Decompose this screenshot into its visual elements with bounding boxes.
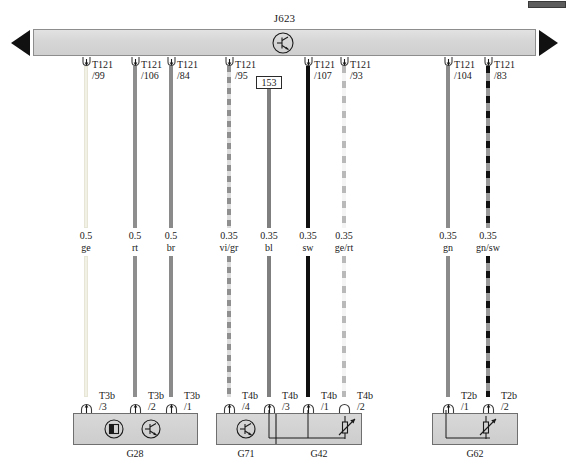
- wire-spec-9: 0.35 gn/sw: [458, 230, 518, 254]
- wire-rt: [133, 66, 137, 228]
- splice-153-box[interactable]: 153: [256, 76, 282, 89]
- top-pin-label-8: T121 /83: [494, 59, 515, 81]
- bottom-pin-label-9: T2b /2: [501, 390, 517, 412]
- wire-ge-rt: [342, 66, 346, 228]
- bottom-pin-label-1: T3b /3: [99, 390, 115, 412]
- wire-rt-lower: [133, 256, 137, 397]
- component-label-g42: G42: [279, 448, 359, 459]
- wire-spec-7: 0.35 ge/rt: [314, 230, 374, 254]
- splice-153-label: 153: [257, 77, 281, 88]
- wire-br-lower: [169, 256, 173, 397]
- wire-br: [169, 66, 173, 228]
- wire-ge: [84, 66, 88, 228]
- bottom-pin-label-3: T3b /1: [184, 390, 200, 412]
- top-pin-label-6: T121 /93: [350, 59, 371, 81]
- component-label-g71: G71: [206, 448, 286, 459]
- top-pin-label-4: T121 /95: [235, 59, 256, 81]
- wire-vi-gr: [227, 66, 231, 228]
- top-pin-label-5: T121 /107: [314, 59, 335, 81]
- bottom-pin-label-2: T3b /2: [148, 390, 164, 412]
- top-pin-label-7: T121 /104: [454, 59, 475, 81]
- bus-continues-right-arrow-icon: [539, 30, 558, 56]
- transistor-circle-icon: [271, 31, 295, 55]
- wire-gn-sw-lower: [486, 256, 490, 397]
- bottom-pin-label-7: T4b /2: [357, 390, 373, 412]
- component-g28[interactable]: [73, 413, 198, 445]
- variable-resistor-icon: [337, 415, 359, 441]
- transistor-circle-icon: [235, 418, 257, 440]
- wire-vi-gr-lower: [227, 256, 231, 397]
- wire-sw-lower: [306, 256, 310, 397]
- wire-gn: [446, 66, 450, 228]
- half-filled-circle-icon: [103, 418, 125, 440]
- wire-ge-lower: [84, 256, 88, 397]
- bottom-pin-label-5: T4b /3: [282, 390, 298, 412]
- module-id-label: J623: [0, 12, 569, 24]
- bottom-pin-label-8: T2b /1: [461, 390, 477, 412]
- wire-bl: [267, 89, 271, 228]
- component-label-g62: G62: [435, 448, 515, 459]
- wire-ge-rt-lower: [342, 256, 346, 397]
- wire-gn-sw: [486, 66, 490, 228]
- wire-bl-lower: [267, 256, 271, 397]
- component-label-g28: G28: [95, 448, 175, 459]
- wire-sw: [306, 66, 310, 228]
- wiring-diagram-canvas: J623 153 T121 /99 0.5 ge T3b /3: [0, 0, 569, 473]
- top-pin-label-2: T121 /106: [141, 59, 162, 81]
- top-pin-label-1: T121 /99: [92, 59, 113, 81]
- variable-resistor-icon: [478, 415, 500, 441]
- bus-continues-left-arrow-icon: [11, 30, 30, 56]
- clipped-toolbar-strip: [528, 1, 566, 8]
- wire-spec-3: 0.5 br: [141, 230, 201, 254]
- transistor-circle-icon: [140, 418, 162, 440]
- bottom-pin-label-4: T4b /4: [242, 390, 258, 412]
- wire-gn-lower: [446, 256, 450, 397]
- bottom-pin-label-6: T4b /1: [321, 390, 337, 412]
- top-pin-label-3: T121 /84: [177, 59, 198, 81]
